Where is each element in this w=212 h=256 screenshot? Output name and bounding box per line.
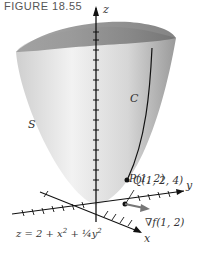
curve-label: C	[130, 92, 139, 105]
x-axis-label: x	[144, 232, 151, 245]
equation: z = 2 + x2 + ¼y2	[15, 227, 102, 239]
svg-text:z = 2 + x2 + ¼y2: z = 2 + x2 + ¼y2	[15, 227, 102, 239]
gradient-label: ∇f(1, 2)	[145, 216, 184, 228]
y-axis-label: y	[185, 179, 193, 192]
point-p-label-visible: P(1, 2)	[128, 172, 164, 184]
paraboloid-diagram: z y x S C Q(1, 2, 4) P(1, 2) ∇f(1, 2) z …	[0, 0, 212, 256]
z-axis-label: z	[102, 3, 109, 16]
gradient-arrowhead	[140, 204, 150, 212]
surface-label: S	[28, 118, 36, 131]
p-leader-line	[126, 190, 134, 203]
